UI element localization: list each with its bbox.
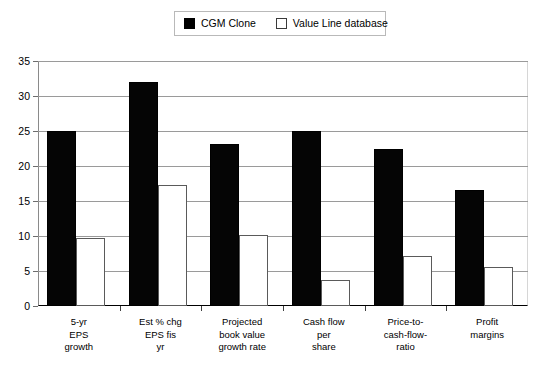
bar-group	[210, 61, 268, 306]
bar-group	[129, 61, 187, 306]
y-axis-tick-label: 20	[18, 161, 30, 172]
bar-value-line-database	[321, 280, 350, 306]
plot-area: 05101520253035	[38, 61, 528, 306]
legend-entry-value-line-database: Value Line database	[276, 18, 388, 29]
open-square-icon	[276, 18, 287, 29]
bar-chart: CGM Clone Value Line database 0510152025…	[0, 0, 542, 366]
x-axis-category-label: Projected book value growth rate	[201, 316, 283, 354]
y-axis-tick	[33, 306, 38, 307]
filled-square-icon	[184, 18, 195, 29]
x-axis-tick	[120, 306, 121, 311]
x-axis-tick	[446, 306, 447, 311]
bar-value-line-database	[403, 256, 432, 306]
x-axis-category-label: 5-yr EPS growth	[38, 316, 120, 354]
y-axis-tick	[33, 61, 38, 62]
x-axis-tick	[283, 306, 284, 311]
chart-legend: CGM Clone Value Line database	[174, 11, 386, 36]
bar-value-line-database	[484, 267, 513, 306]
bar-cgm-clone	[210, 144, 239, 306]
x-axis-labels: 5-yr EPS growthEst % chg EPS fis yrProje…	[38, 316, 528, 362]
x-axis-category-label: Est % chg EPS fis yr	[120, 316, 202, 354]
bar-group	[374, 61, 432, 306]
y-axis-tick	[33, 271, 38, 272]
y-axis-tick-label: 25	[18, 126, 30, 137]
y-axis-tick-label: 10	[18, 231, 30, 242]
y-axis-tick	[33, 131, 38, 132]
bar-value-line-database	[158, 185, 187, 306]
bar-value-line-database	[76, 238, 105, 306]
y-axis-tick-label: 30	[18, 91, 30, 102]
x-axis-category-label: Profit margins	[446, 316, 528, 341]
y-axis-tick	[33, 96, 38, 97]
legend-entry-cgm-clone: CGM Clone	[184, 18, 256, 29]
bar-cgm-clone	[455, 190, 484, 306]
bar-cgm-clone	[292, 131, 321, 306]
bar-group	[455, 61, 513, 306]
bar-value-line-database	[239, 235, 268, 306]
x-axis-category-label: Price-to- cash-flow- ratio	[365, 316, 447, 354]
bar-group	[292, 61, 350, 306]
bar-cgm-clone	[129, 82, 158, 306]
x-axis-tick	[365, 306, 366, 311]
legend-label-cgm-clone: CGM Clone	[201, 18, 256, 29]
y-axis-tick-label: 5	[24, 266, 30, 277]
x-axis-tick	[201, 306, 202, 311]
bar-group	[47, 61, 105, 306]
y-axis-tick-label: 0	[24, 301, 30, 312]
bar-cgm-clone	[47, 131, 76, 306]
y-axis-tick	[33, 166, 38, 167]
bar-cgm-clone	[374, 149, 403, 306]
x-axis-category-label: Cash flow per share	[283, 316, 365, 354]
y-axis-tick	[33, 236, 38, 237]
y-axis-tick-label: 35	[18, 56, 30, 67]
y-axis-tick	[33, 201, 38, 202]
y-axis-tick-label: 15	[18, 196, 30, 207]
legend-label-value-line-database: Value Line database	[293, 18, 388, 29]
